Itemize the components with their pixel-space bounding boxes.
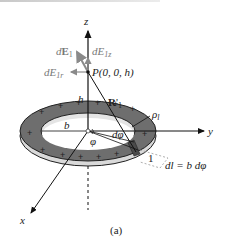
svg-text:+: + bbox=[130, 104, 135, 114]
point-p bbox=[86, 70, 90, 74]
x-axis-label: x bbox=[19, 214, 25, 226]
height-label: h bbox=[78, 93, 84, 105]
svg-text:+: + bbox=[78, 152, 83, 162]
de1r-label: dE1r bbox=[44, 66, 64, 80]
svg-text:+: + bbox=[95, 98, 100, 108]
origin bbox=[86, 129, 90, 133]
r1-label: R'1 bbox=[108, 96, 122, 110]
de1-label: dE1 bbox=[56, 45, 73, 59]
segment-label: 1 bbox=[148, 152, 154, 164]
svg-text:+: + bbox=[114, 149, 119, 159]
svg-text:+: + bbox=[60, 150, 65, 160]
dphi-label: dφ bbox=[112, 128, 124, 140]
ring-charge-diagram: + + + + + + + + + + + + + z y x dE1 dE1z bbox=[0, 0, 229, 248]
y-axis-label: y bbox=[207, 125, 213, 137]
svg-text:+: + bbox=[27, 128, 32, 138]
figure-caption: (a) bbox=[110, 224, 123, 237]
radius-label: b bbox=[64, 119, 70, 131]
de1-vector bbox=[77, 52, 88, 72]
phi-label: φ bbox=[90, 135, 96, 147]
rho-label: ρl bbox=[151, 108, 160, 122]
svg-text:+: + bbox=[40, 145, 45, 155]
z-axis-label: z bbox=[83, 15, 89, 27]
point-p-label: P(0, 0, h) bbox=[91, 66, 134, 79]
de1z-label: dE1z bbox=[92, 45, 112, 59]
svg-text:+: + bbox=[39, 107, 44, 117]
dl-equation: dl = b dφ bbox=[165, 159, 206, 171]
svg-text:+: + bbox=[96, 152, 101, 162]
svg-text:+: + bbox=[58, 101, 63, 111]
